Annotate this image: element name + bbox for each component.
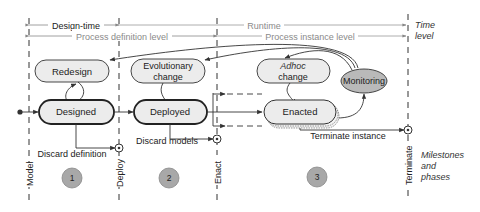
discard-definition-arrow [76, 124, 115, 148]
process-instance-level-label: Process instance level [265, 32, 355, 42]
evolutionary-change-label-line1: Evolutionary [143, 61, 193, 71]
process-lifecycle-diagram: Design-time Runtime Process definition l… [0, 0, 480, 212]
milestone-enact-label: Enact [213, 160, 223, 184]
monitoring-label: Monitoring [343, 76, 385, 86]
adhoc-change-label-line2: change [278, 72, 308, 82]
adhoc-change-label-line1: Adhoc [279, 61, 306, 71]
designed-label: Designed [56, 106, 96, 117]
milestone-deploy-label: Deploy [115, 158, 125, 187]
milestones-legend-line3: phases [420, 172, 451, 182]
final-node-terminate-dot [407, 129, 410, 132]
initial-node [17, 109, 22, 114]
final-node-deploy-dot [118, 147, 121, 150]
diagram-canvas: Design-time Runtime Process definition l… [0, 0, 480, 212]
enacted-label: Enacted [283, 106, 318, 117]
time-level-legend-line1: Time [415, 20, 435, 30]
final-node-enact-dot [216, 138, 219, 141]
milestones-legend-line1: Milestones [421, 150, 465, 160]
process-definition-level-label: Process definition level [76, 32, 168, 42]
milestones-legend-line2: and [421, 161, 437, 171]
terminate-instance-label: Terminate instance [310, 131, 386, 141]
phase-3-label: 3 [315, 172, 320, 182]
phase-1-label: 1 [70, 173, 75, 183]
deployed-label: Deployed [150, 106, 190, 117]
phase-2-label: 2 [167, 173, 172, 183]
evolutionary-change-label-line2: change [153, 72, 183, 82]
enacted-to-monitoring-arrow [337, 94, 364, 118]
discard-models-label: Discard models [136, 136, 199, 146]
redesign-label: Redesign [52, 66, 92, 77]
time-level-legend-line2: level [415, 31, 435, 41]
milestone-model-label: Model [25, 161, 35, 186]
terminate-instance-arrow [300, 128, 404, 130]
milestone-terminate-label: Terminate [404, 145, 414, 185]
discard-definition-label: Discard definition [37, 149, 106, 159]
